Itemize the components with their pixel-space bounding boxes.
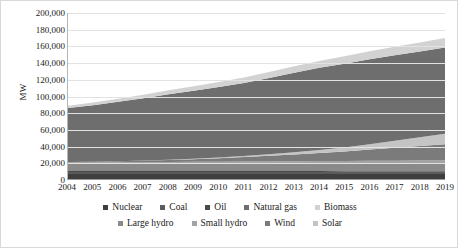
legend-row-0: NuclearCoalOilNatural gasBiomass <box>1 199 458 215</box>
legend-swatch-icon <box>160 205 165 210</box>
x-axis-tick-2012: 2012 <box>260 183 278 192</box>
gridline <box>68 13 445 14</box>
plot-wrapper: MW 020,00040,00060,00080,000100,000120,0… <box>1 1 458 201</box>
gridline <box>68 163 445 164</box>
x-axis-tick-2007: 2007 <box>134 183 152 192</box>
x-axis-tick-2015: 2015 <box>335 183 353 192</box>
x-axis-tick-2005: 2005 <box>83 183 101 192</box>
legend-item-solar[interactable]: Solar <box>313 218 342 228</box>
legend-item-small-hydro[interactable]: Small hydro <box>192 218 248 228</box>
y-axis-tick-6: 120,000 <box>36 75 65 84</box>
gridline <box>68 147 445 148</box>
x-axis-tick-2018: 2018 <box>411 183 429 192</box>
x-axis-tick-2019: 2019 <box>436 183 454 192</box>
legend-swatch-icon <box>103 205 108 210</box>
gridline <box>68 63 445 64</box>
legend-item-coal[interactable]: Coal <box>160 202 187 212</box>
gridline <box>68 97 445 98</box>
gridline <box>68 113 445 114</box>
legend-item-nuclear[interactable]: Nuclear <box>103 202 142 212</box>
legend-label: Large hydro <box>127 218 174 228</box>
legend-label: Solar <box>322 218 342 228</box>
legend-swatch-icon <box>315 205 320 210</box>
x-axis-tick-2009: 2009 <box>184 183 202 192</box>
legend-item-biomass[interactable]: Biomass <box>315 202 357 212</box>
x-axis-tick-2016: 2016 <box>360 183 378 192</box>
plot-area <box>67 13 445 180</box>
y-axis-tick-7: 140,000 <box>36 59 65 68</box>
x-axis-tick-2011: 2011 <box>235 183 253 192</box>
legend-label: Wind <box>274 218 295 228</box>
legend-label: Natural gas <box>253 202 297 212</box>
y-axis-tick-8: 160,000 <box>36 42 65 51</box>
x-axis-tick-2008: 2008 <box>159 183 177 192</box>
x-axis-tick-2006: 2006 <box>108 183 126 192</box>
gridline <box>68 46 445 47</box>
y-axis-tick-4: 80,000 <box>40 109 65 118</box>
x-axis-tick-2014: 2014 <box>310 183 328 192</box>
legend-label: Coal <box>169 202 187 212</box>
legend-label: Nuclear <box>112 202 142 212</box>
legend-item-wind[interactable]: Wind <box>265 218 295 228</box>
area-series-coal <box>68 172 445 174</box>
gridline <box>68 80 445 81</box>
legend-swatch-icon <box>192 221 197 226</box>
y-axis-tick-2: 40,000 <box>40 142 65 151</box>
y-axis-tick-labels: 020,00040,00060,00080,000100,000120,0001… <box>17 13 65 180</box>
legend-row-1: Large hydroSmall hydroWindSolar <box>1 215 458 231</box>
x-axis-tick-labels: 2004200520062007200820092010201120122013… <box>67 183 445 197</box>
x-axis-tick-2010: 2010 <box>209 183 227 192</box>
gridline <box>68 130 445 131</box>
legend-item-natural-gas[interactable]: Natural gas <box>244 202 297 212</box>
legend-swatch-icon <box>313 221 318 226</box>
x-axis-tick-2004: 2004 <box>58 183 76 192</box>
legend-swatch-icon <box>265 221 270 226</box>
area-series-nuclear <box>68 174 445 179</box>
x-axis-tick-2013: 2013 <box>285 183 303 192</box>
legend-item-oil[interactable]: Oil <box>205 202 226 212</box>
legend-swatch-icon <box>244 205 249 210</box>
y-axis-tick-3: 60,000 <box>40 125 65 134</box>
gridline <box>68 30 445 31</box>
y-axis-tick-5: 100,000 <box>36 92 65 101</box>
y-axis-tick-9: 180,000 <box>36 25 65 34</box>
legend-swatch-icon <box>118 221 123 226</box>
x-axis-tick-2017: 2017 <box>386 183 404 192</box>
y-axis-tick-10: 200,000 <box>36 9 65 18</box>
chart-card: MW 020,00040,00060,00080,000100,000120,0… <box>0 0 458 248</box>
y-axis-tick-1: 20,000 <box>40 159 65 168</box>
legend-item-large-hydro[interactable]: Large hydro <box>118 218 174 228</box>
legend-label: Biomass <box>324 202 357 212</box>
legend-label: Small hydro <box>201 218 248 228</box>
legend-swatch-icon <box>205 205 210 210</box>
chart-legend: NuclearCoalOilNatural gasBiomassLarge hy… <box>1 199 458 231</box>
legend-label: Oil <box>214 202 226 212</box>
